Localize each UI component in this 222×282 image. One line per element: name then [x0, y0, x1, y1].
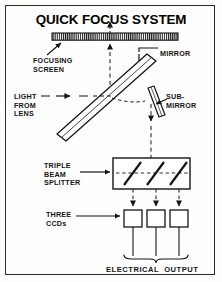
label-electrical-output: ELECTRICAL OUTPUT — [106, 266, 198, 275]
quick-focus-system-figure: QUICK FOCUS SYSTEM — [0, 0, 222, 282]
label-focusing-screen: FOCUSING SCREEN — [33, 57, 73, 74]
label-triple-beam-splitter: TRIPLE BEAM SPLITTER — [44, 162, 80, 188]
ccd-box — [170, 210, 188, 227]
focusing-screen-pointer-arrow — [47, 43, 61, 55]
beam-to-sub-mirror — [112, 98, 145, 102]
label-light-from-lens: LIGHT FROM LENS — [14, 93, 37, 119]
label-three-ccds: THREE CCDs — [46, 211, 71, 228]
focusing-screen-graphic — [52, 33, 178, 40]
label-mirror: MIRROR — [160, 50, 190, 59]
ccd-box — [124, 210, 142, 227]
label-sub-mirror: SUB- MIRROR — [166, 93, 196, 110]
ccd-output-leads — [133, 227, 179, 256]
electrical-output-brace — [124, 255, 188, 263]
triple-beam-splitter-graphic — [113, 158, 190, 189]
ccd-box — [147, 210, 165, 227]
ccd-boxes-graphic — [124, 210, 188, 227]
diagram-canvas — [0, 0, 222, 282]
beams-splitter-to-ccds — [133, 189, 179, 206]
